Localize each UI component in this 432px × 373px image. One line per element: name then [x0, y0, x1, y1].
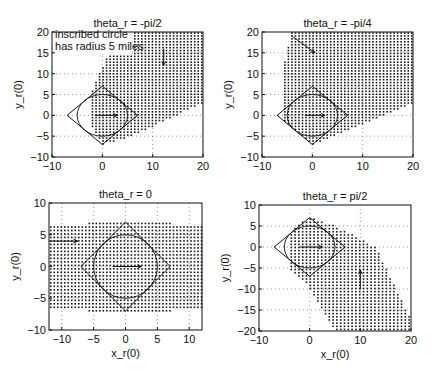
y-tick-label: 5	[250, 220, 256, 232]
y-tick-label: −10	[237, 283, 256, 295]
y-tick-label: −5	[243, 262, 256, 274]
y-tick-label: 15	[37, 47, 49, 59]
y-tick-label: −10	[30, 151, 49, 163]
y-tick-label: −5	[33, 292, 46, 304]
x-tick-label: 10	[357, 160, 369, 172]
subplot-theta-pi-over-2: −1001020−20−15−10−50510theta_r = pi/2y_r…	[219, 190, 417, 360]
y-tick-label: −20	[237, 325, 256, 337]
y-axis-label: y_r(0)	[222, 80, 234, 109]
x-tick-label: 0	[122, 333, 128, 345]
y-tick-label: 5	[43, 89, 49, 101]
x-tick-label: 10	[183, 333, 195, 345]
y-tick-label: 15	[247, 47, 259, 59]
y-tick-label: 10	[244, 199, 256, 211]
y-tick-label: −10	[240, 151, 259, 163]
x-tick-label: −5	[87, 333, 100, 345]
y-tick-label: −5	[36, 130, 49, 142]
ownship-heading-arrow-icon	[300, 245, 323, 249]
y-axis-label: y_r(0)	[9, 252, 21, 281]
subplot-title: theta_r = pi/2	[303, 190, 368, 202]
grid-lines	[259, 205, 411, 331]
reachable-region-dots	[291, 218, 410, 330]
x-tick-label: 10	[147, 160, 159, 172]
subplot-theta-minus-pi-over-4: −1001020−10−505101520theta_r = -pi/4y_r(…	[222, 17, 419, 172]
y-tick-label: 5	[253, 89, 259, 101]
subplot-theta-minus-pi-over-2: inscribed circlehas radius 5 miles−10010…	[12, 17, 209, 172]
y-tick-label: 0	[253, 109, 259, 121]
x-tick-label: 10	[354, 334, 366, 346]
y-tick-label: 20	[37, 26, 49, 38]
annotation-text: inscribed circle	[55, 28, 128, 40]
y-tick-label: 10	[34, 197, 46, 209]
subplot-title: theta_r = -pi/2	[93, 17, 161, 29]
x-tick-label: 0	[99, 160, 105, 172]
annotation-text: has radius 5 miles	[55, 40, 144, 52]
x-tick-label: 0	[307, 334, 313, 346]
y-tick-label: −15	[237, 304, 256, 316]
y-tick-label: 5	[40, 229, 46, 241]
y-tick-label: 0	[43, 109, 49, 121]
x-tick-label: 20	[197, 160, 209, 172]
x-tick-label: 0	[309, 160, 315, 172]
y-axis-label: y_r(0)	[219, 254, 231, 283]
x-axis-label: x_r(0)	[321, 348, 350, 360]
y-tick-label: 10	[37, 68, 49, 80]
x-tick-label: 20	[405, 334, 417, 346]
x-axis-label: x_r(0)	[111, 347, 140, 359]
subplot-title: theta_r = 0	[99, 188, 152, 200]
ownship-heading-arrow-icon	[305, 113, 325, 117]
y-tick-label: −5	[246, 130, 259, 142]
x-tick-label: 20	[407, 160, 419, 172]
reachable-region-dots	[284, 32, 412, 144]
y-tick-label: 0	[250, 241, 256, 253]
x-tick-label: −10	[52, 333, 71, 345]
y-tick-label: 10	[247, 68, 259, 80]
y-tick-label: −10	[27, 324, 46, 336]
y-axis-label: y_r(0)	[12, 80, 24, 109]
subplot-theta-zero: −10−50510−10−50510theta_r = 0y_r(0)x_r(0…	[9, 188, 202, 359]
y-tick-label: 20	[247, 26, 259, 38]
figure-canvas: inscribed circlehas radius 5 miles−10010…	[0, 0, 432, 373]
intruder-heading-arrow-icon	[49, 239, 78, 243]
subplot-title: theta_r = -pi/4	[303, 17, 371, 29]
y-tick-label: 0	[40, 261, 46, 273]
x-tick-label: 5	[154, 333, 160, 345]
